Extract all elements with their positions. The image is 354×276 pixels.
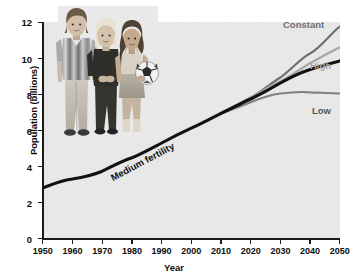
series-label-low: Low [312,105,331,116]
y-tick-label: 2 [6,198,32,209]
x-tick-label: 2050 [323,246,354,256]
three-children-photo [56,6,159,142]
y-tick-label: 0 [6,234,32,245]
x-axis-title: Year [0,262,348,273]
y-tick-label: 12 [6,17,32,28]
series-label-high: High [310,60,331,71]
series-label-constant: Constant [283,19,324,30]
y-axis-title: Population (billions) [28,31,39,191]
